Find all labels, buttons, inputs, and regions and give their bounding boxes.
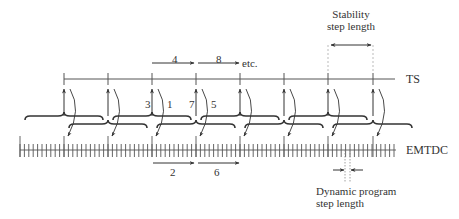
dynamic-step-line2: step length	[316, 197, 396, 209]
dynamic-step-line1: Dynamic program	[316, 185, 396, 197]
lower-braces	[69, 120, 412, 128]
stability-step-line2: step length	[318, 20, 384, 32]
stability-step-guides	[328, 45, 373, 73]
dynamic-step-label: Dynamic program step length	[316, 185, 396, 209]
emtdc-timeline	[20, 136, 396, 157]
ts-label: TS	[406, 73, 420, 85]
label-1: 1	[167, 98, 173, 110]
up-arrows	[64, 89, 373, 116]
stability-step-line1: Stability	[318, 8, 384, 20]
stability-step-label: Stability step length	[318, 8, 384, 32]
label-7: 7	[189, 98, 195, 110]
emtdc-label: EMTDC	[406, 144, 448, 156]
label-5: 5	[211, 98, 217, 110]
label-4: 4	[172, 53, 178, 65]
label-2: 2	[170, 166, 176, 178]
ts-timeline	[64, 73, 395, 85]
label-3: 3	[145, 98, 151, 110]
down-curved-arrows	[68, 89, 385, 136]
label-6: 6	[214, 166, 220, 178]
label-8: 8	[216, 53, 222, 65]
etc-label: etc.	[242, 57, 258, 69]
